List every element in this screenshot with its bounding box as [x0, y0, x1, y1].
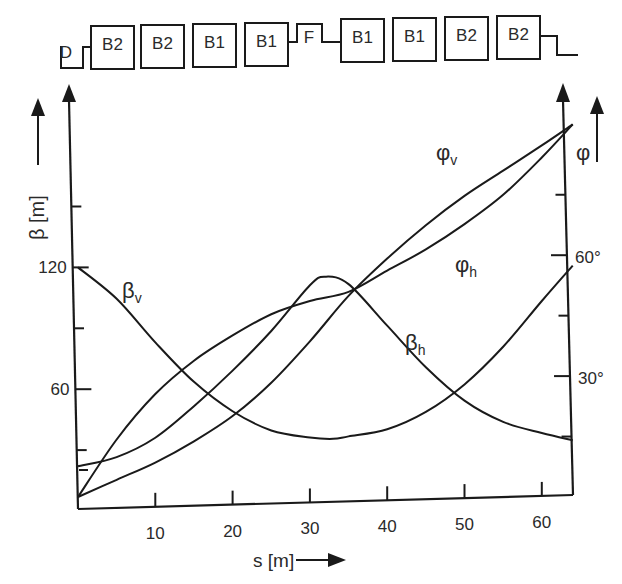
y-axis-arrow-icon — [31, 98, 45, 116]
x-tick-label: 60 — [532, 513, 551, 532]
label-β-v: βv — [122, 278, 142, 306]
lattice-dipole-label: B1 — [404, 27, 425, 46]
label-φ-h: φh — [455, 252, 477, 280]
lattice-quad-d: D — [60, 43, 72, 62]
y-axis-title: β [m] — [26, 98, 48, 240]
x-tick-label: 50 — [455, 515, 474, 534]
x-tick-label: 30 — [300, 519, 319, 538]
lattice-quad-f: F — [304, 28, 314, 47]
lattice-dipole-label: B2 — [102, 35, 123, 54]
x-axis-label: s [m] — [253, 550, 294, 571]
y2-tick-label: 30° — [578, 369, 604, 388]
curve-φ-v — [78, 124, 573, 497]
y2-tick-label: 60° — [575, 248, 601, 267]
lattice-dipole-label: B2 — [508, 25, 529, 44]
lattice-dipole-label: B2 — [152, 34, 173, 53]
lattice-dipole-label: B1 — [256, 32, 277, 51]
curve-β-v — [78, 266, 573, 439]
label-β-h: βh — [405, 330, 425, 358]
right-axis-arrow-icon — [556, 83, 570, 102]
lattice-dipole-label: B2 — [456, 26, 477, 45]
y-ticks: 60120 — [38, 207, 91, 471]
lattice-diagram: DB2B2B1B1FB1B1B2B2 — [60, 16, 578, 69]
left-axis — [69, 100, 78, 509]
curve-labels: βvβhφvφh — [122, 140, 477, 358]
y-tick-label: 120 — [38, 258, 66, 277]
lattice-dipole-label: B1 — [352, 28, 373, 47]
y2-axis-arrow-icon — [590, 96, 604, 114]
y2-axis-label: φ — [576, 140, 590, 165]
label-φ-v: φv — [436, 140, 457, 168]
y2-axis-title: φ — [576, 96, 604, 165]
x-tick-label: 10 — [146, 524, 165, 543]
beta-function-chart: DB2B2B1B1FB1B1B2B2 102030405060 60120 30… — [0, 0, 622, 584]
curve-φ-h — [78, 124, 573, 497]
left-axis-arrow-icon — [62, 84, 76, 102]
x-tick-label: 20 — [223, 522, 242, 541]
x-axis-title: s [m] — [253, 550, 346, 571]
y-axis-label: β [m] — [26, 195, 48, 240]
curves — [78, 124, 573, 497]
y2-ticks: 30°60° — [551, 195, 604, 437]
x-tick-label: 40 — [378, 517, 397, 536]
x-axis — [78, 495, 573, 509]
x-axis-arrow-icon — [328, 553, 346, 567]
y-tick-label: 60 — [50, 380, 69, 399]
x-ticks: 102030405060 — [146, 482, 551, 543]
lattice-dipole-label: B1 — [204, 33, 225, 52]
